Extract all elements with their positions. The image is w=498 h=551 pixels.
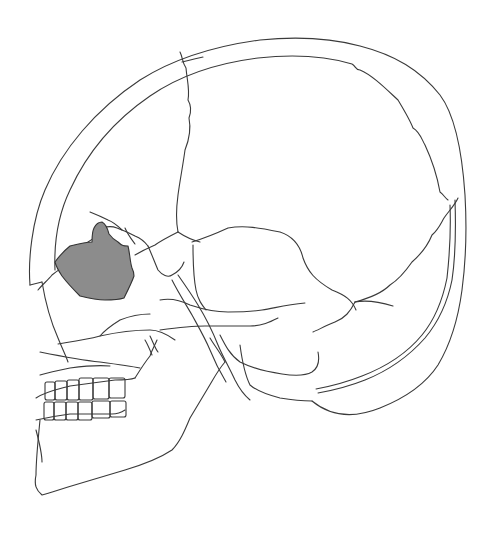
skull-diagram [0,0,498,551]
skull-drawing-svg [0,0,498,551]
